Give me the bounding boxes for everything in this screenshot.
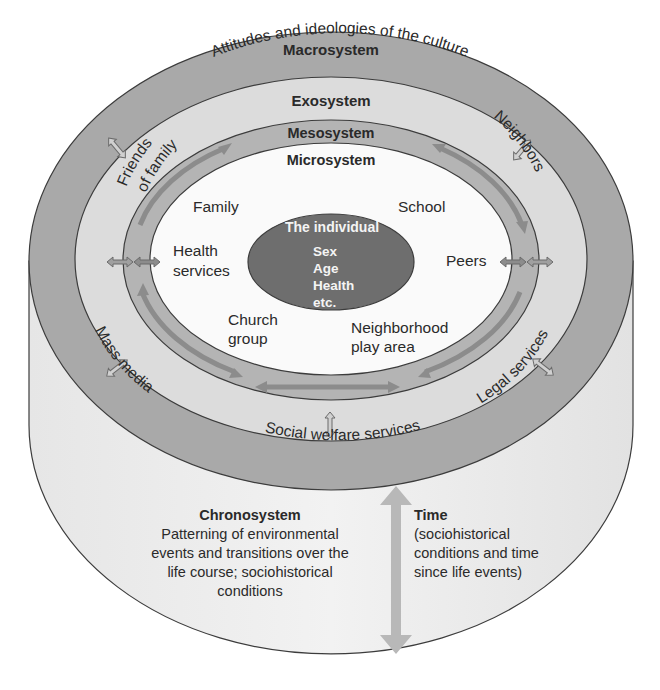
- micro-church-label-2: group: [228, 330, 268, 347]
- individual-attr-etc: etc.: [313, 295, 336, 310]
- time-line-3: since life events): [414, 564, 522, 580]
- chronosystem-line-1: Patterning of environmental: [161, 526, 338, 542]
- micro-church-label-1: Church: [228, 311, 278, 328]
- microsystem-title: Microsystem: [287, 152, 376, 168]
- time-line-2: conditions and time: [414, 545, 539, 561]
- macrosystem-title: Macrosystem: [283, 41, 379, 58]
- time-title: Time: [414, 507, 448, 523]
- chronosystem-line-2: events and transitions over the: [151, 545, 348, 561]
- ecological-systems-diagram: Macrosystem Attitudes and ideologies of …: [0, 0, 660, 690]
- micro-neighborhood-label-2: play area: [351, 338, 415, 355]
- chronosystem-line-3: life course; sociohistorical: [167, 564, 332, 580]
- individual-attr-health: Health: [313, 278, 354, 293]
- micro-neighborhood-label-1: Neighborhood: [351, 319, 448, 336]
- chronosystem-title: Chronosystem: [199, 507, 301, 523]
- mesosystem-title: Mesosystem: [287, 125, 374, 141]
- individual-attr-age: Age: [313, 261, 339, 276]
- micro-family-label: Family: [193, 198, 239, 215]
- micro-health-label-2: services: [173, 262, 230, 279]
- individual-title: The individual: [285, 219, 379, 235]
- time-line-1: (sociohistorical: [414, 526, 510, 542]
- micro-school-label: School: [398, 198, 445, 215]
- micro-health-label-1: Health: [173, 242, 218, 259]
- micro-peers-label: Peers: [446, 252, 487, 269]
- individual-attr-sex: Sex: [313, 244, 338, 259]
- exosystem-title: Exosystem: [291, 92, 370, 109]
- chronosystem-line-4: conditions: [217, 583, 282, 599]
